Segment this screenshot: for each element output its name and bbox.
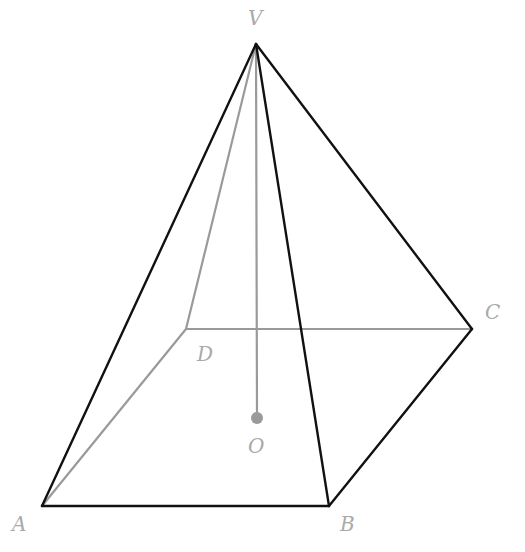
label-C: C — [485, 302, 500, 322]
edge-BC — [329, 329, 472, 506]
label-D: D — [197, 344, 213, 364]
altitude-VO — [256, 44, 257, 417]
edge-VD — [186, 44, 256, 329]
label-A: A — [12, 514, 26, 534]
label-B: B — [340, 514, 355, 534]
edge-VB — [256, 44, 329, 506]
center-point-O — [251, 412, 263, 424]
edge-AD — [42, 329, 186, 506]
pyramid-diagram — [0, 0, 525, 552]
edge-VC — [256, 44, 472, 329]
label-V: V — [248, 8, 262, 28]
edge-VA — [42, 44, 256, 506]
label-O: O — [248, 436, 264, 456]
